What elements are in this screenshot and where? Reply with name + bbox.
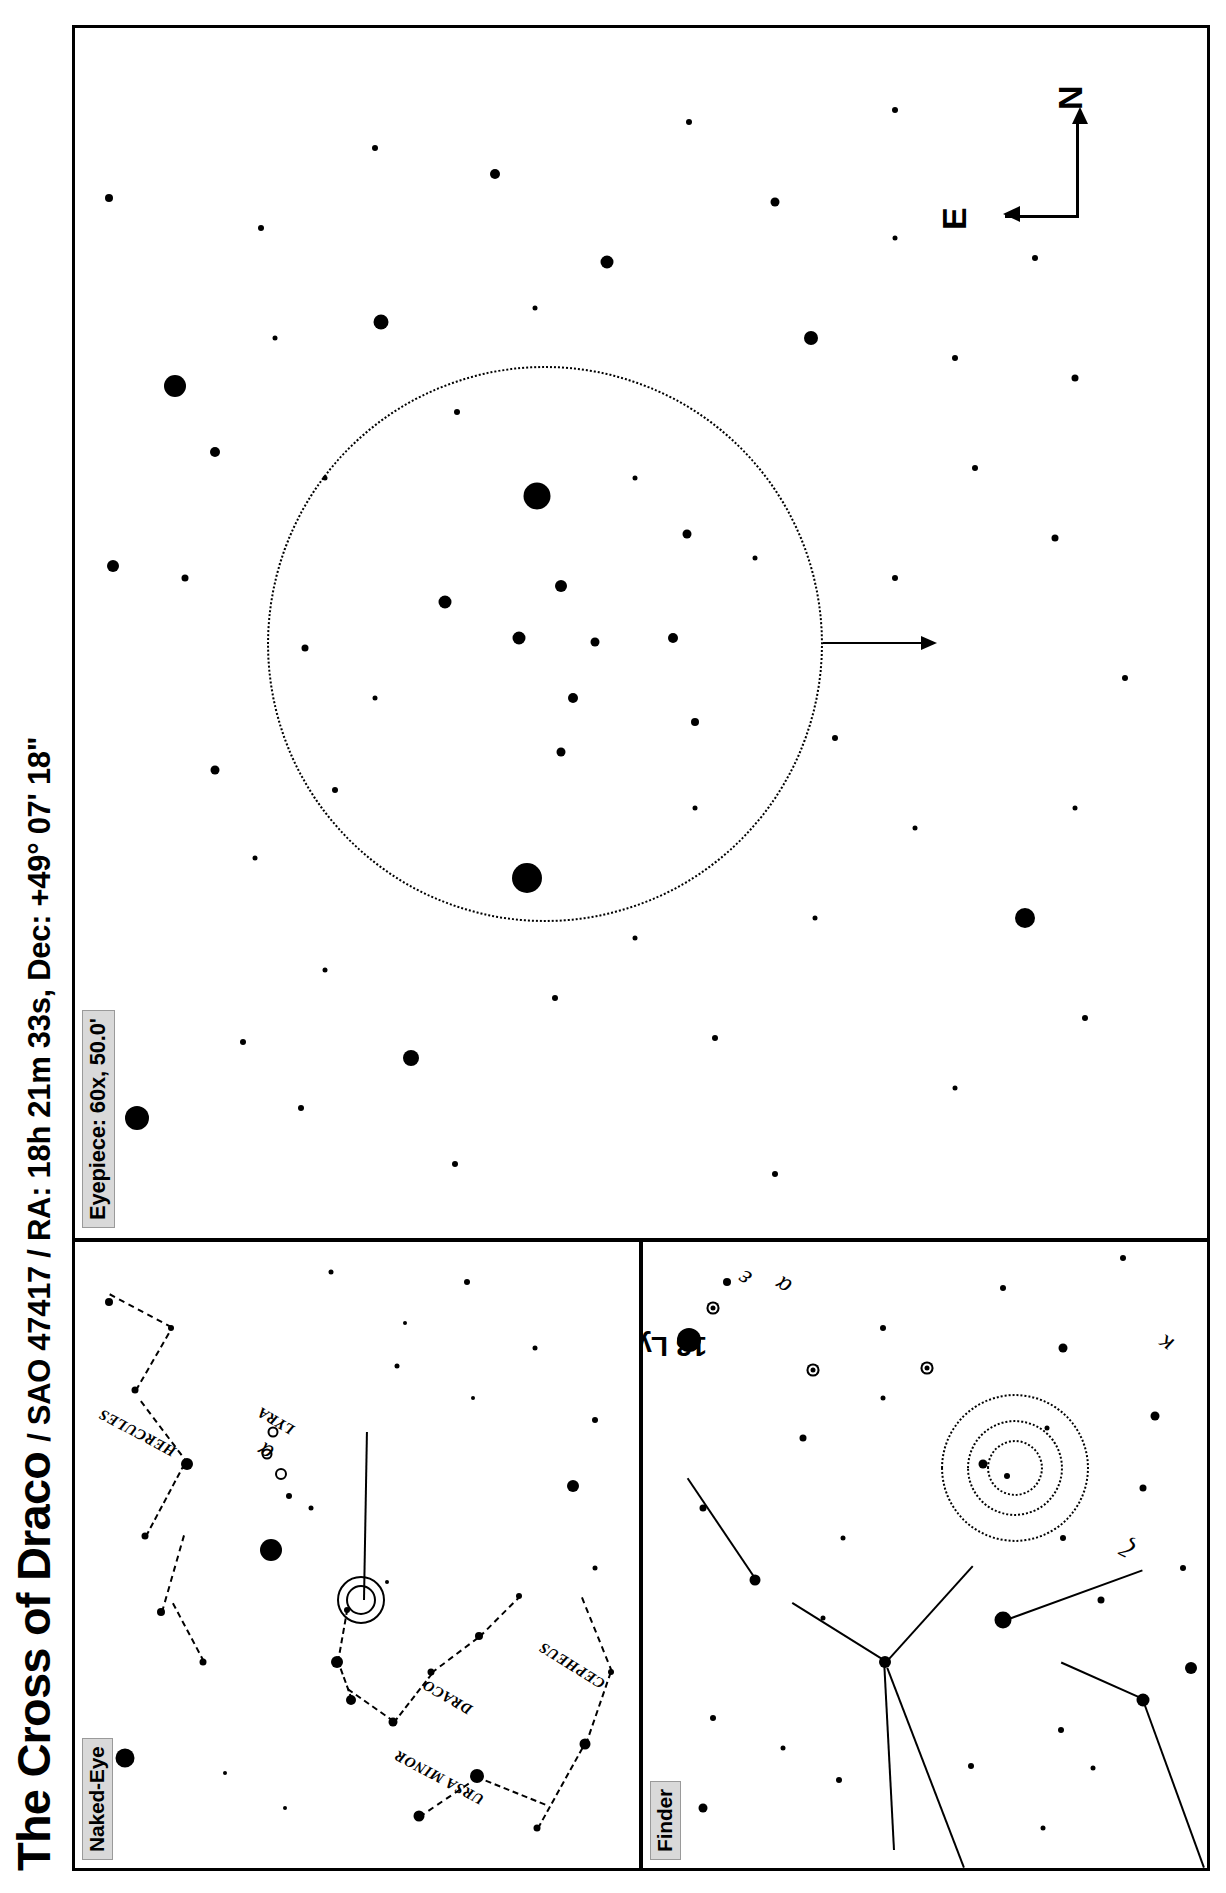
star <box>772 1171 778 1177</box>
constellation-line <box>347 1688 394 1722</box>
star <box>168 1325 174 1331</box>
star-double <box>811 1368 816 1373</box>
star <box>712 1035 718 1041</box>
star <box>403 1050 419 1066</box>
star-label-alpha-lyrae: α <box>251 1435 278 1468</box>
star <box>490 169 500 179</box>
star <box>512 863 542 893</box>
star <box>879 1656 891 1668</box>
star <box>210 447 220 457</box>
star <box>116 1749 135 1768</box>
star <box>105 194 113 202</box>
constellation-line <box>581 1597 613 1672</box>
panel-eyepiece[interactable]: Eyepiece: 60x, 50.0' <box>75 28 1207 1240</box>
star <box>753 556 758 561</box>
star <box>633 476 638 481</box>
panel-caption-eyepiece: Eyepiece: 60x, 50.0' <box>82 1010 115 1228</box>
star <box>1185 1662 1197 1674</box>
star <box>1120 1255 1126 1261</box>
star <box>836 1777 842 1783</box>
constellation-line <box>885 1565 973 1663</box>
star <box>995 1612 1012 1629</box>
star <box>781 1746 786 1751</box>
star <box>332 787 338 793</box>
star <box>1151 1412 1160 1421</box>
constellation-line <box>687 1478 757 1580</box>
star <box>200 1659 207 1666</box>
star <box>471 1396 475 1400</box>
star <box>633 936 638 941</box>
star <box>107 560 119 572</box>
compass-east-axis <box>1076 122 1079 218</box>
star <box>979 1460 988 1469</box>
star <box>1052 535 1059 542</box>
constellation-line <box>792 1602 886 1662</box>
star <box>223 1771 227 1775</box>
star <box>1098 1597 1105 1604</box>
panel-caption-naked-eye: Naked-Eye <box>82 1738 113 1860</box>
star <box>952 355 958 361</box>
star <box>800 1435 807 1442</box>
star <box>414 1811 425 1822</box>
star <box>601 256 614 269</box>
panel-finder[interactable]: Finder <box>641 1240 1207 1868</box>
star-label-13-lyr: 13 Lyr <box>641 1330 707 1362</box>
star <box>385 1580 389 1584</box>
star <box>1060 1535 1066 1541</box>
star <box>344 1607 350 1613</box>
star <box>142 1533 149 1540</box>
star <box>240 1039 246 1045</box>
star <box>1015 908 1035 928</box>
fov-pointer-line <box>823 642 923 644</box>
star <box>1000 1285 1006 1291</box>
star <box>892 107 898 113</box>
star <box>182 575 189 582</box>
star <box>258 225 264 231</box>
star <box>592 1417 598 1423</box>
eyepiece-fov-circle <box>267 366 823 922</box>
star <box>804 331 818 345</box>
star <box>286 1493 292 1499</box>
constellation-line <box>1061 1662 1144 1700</box>
star <box>691 718 699 726</box>
star <box>533 306 538 311</box>
star <box>454 409 460 415</box>
page-header: The Cross of Draco / SAO 47417 / RA: 18h… <box>10 737 57 1871</box>
constellation-line <box>135 1333 170 1391</box>
star <box>710 1715 716 1721</box>
constellation-line <box>145 1464 185 1537</box>
star <box>373 696 378 701</box>
constellation-line <box>479 1595 521 1637</box>
star <box>832 735 838 741</box>
star-label-alpha: α <box>769 1269 796 1302</box>
star <box>953 1086 958 1091</box>
star <box>323 968 328 973</box>
panel-naked-eye[interactable]: Naked-Eye <box>75 1240 641 1868</box>
star <box>557 748 566 757</box>
compass-north-axis <box>1005 215 1079 218</box>
constellation-line <box>1003 1569 1143 1621</box>
star <box>892 575 898 581</box>
star <box>1082 1015 1088 1021</box>
star <box>389 1718 398 1727</box>
star <box>105 1298 113 1306</box>
star <box>309 1506 314 1511</box>
star <box>1041 1826 1046 1831</box>
constellation-label-cepheus: CEPHEUS <box>536 1638 608 1692</box>
star <box>580 1739 591 1750</box>
star <box>374 315 389 330</box>
star-double <box>925 1366 930 1371</box>
star <box>331 1656 343 1668</box>
star <box>260 1539 282 1561</box>
star <box>552 995 558 1001</box>
constellation-line <box>161 1535 185 1612</box>
star <box>1059 1344 1068 1353</box>
star <box>567 1480 579 1492</box>
star <box>1004 1473 1010 1479</box>
star <box>395 1364 400 1369</box>
star <box>1091 1766 1096 1771</box>
fov-pointer-line <box>363 1432 368 1600</box>
star <box>568 693 578 703</box>
star <box>253 856 258 861</box>
compass-rose <box>1005 122 1079 218</box>
